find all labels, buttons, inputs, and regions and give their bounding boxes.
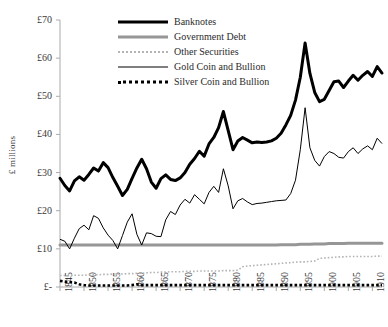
- series-line-gold-coin-and-bullion: [60, 108, 382, 249]
- legend-item-label: Banknotes: [174, 17, 216, 27]
- series-line-other-securities: [60, 256, 382, 275]
- legend-item-banknotes[interactable]: Banknotes: [118, 14, 269, 29]
- legend-item-silver-coin-and-bullion[interactable]: Silver Coin and Bullion: [118, 74, 269, 89]
- legend-item-government-debt[interactable]: Government Debt: [118, 29, 269, 44]
- legend-swatch-icon: [118, 16, 168, 27]
- series-line-silver-coin-and-bullion: [60, 281, 382, 286]
- legend-item-label: Other Securities: [174, 47, 239, 57]
- legend-item-other-securities[interactable]: Other Securities: [118, 44, 269, 59]
- legend-item-label: Silver Coin and Bullion: [174, 77, 269, 87]
- legend-item-label: Gold Coin and Bullion: [174, 62, 265, 72]
- legend-swatch-icon: [118, 76, 168, 87]
- chart-container: £ millions £70£60£50£40£30£20£10£- 18451…: [0, 0, 388, 327]
- legend-swatch-icon: [118, 61, 168, 72]
- legend-item-label: Government Debt: [174, 32, 246, 42]
- series-line-government-debt: [60, 243, 382, 245]
- legend-swatch-icon: [118, 31, 168, 42]
- legend-swatch-icon: [118, 46, 168, 57]
- chart-legend: BanknotesGovernment DebtOther Securities…: [118, 14, 269, 89]
- legend-item-gold-coin-and-bullion[interactable]: Gold Coin and Bullion: [118, 59, 269, 74]
